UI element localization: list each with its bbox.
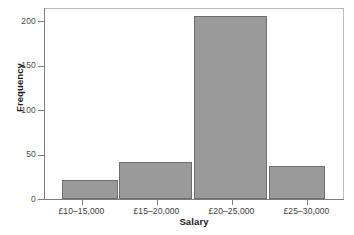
x-tick-mark (307, 200, 308, 205)
y-tick-mark (38, 66, 44, 67)
x-tick-mark (82, 200, 83, 205)
bar (269, 166, 325, 199)
bar (119, 162, 192, 199)
y-axis-line (44, 8, 45, 200)
y-tick-label: 200 (0, 16, 36, 26)
y-tick-label: 150 (0, 60, 36, 70)
y-axis-title: Frequency (14, 43, 25, 133)
y-tick-mark (38, 110, 44, 111)
y-tick-mark (38, 155, 44, 156)
x-tick-mark (232, 200, 233, 205)
bar (62, 180, 118, 199)
y-tick-mark (38, 199, 44, 200)
y-tick-label: 50 (0, 149, 36, 159)
x-axis-title: Salary (44, 216, 344, 227)
x-tick-label: £25–30,000 (262, 206, 352, 216)
y-tick-label: 0 (0, 194, 36, 204)
x-axis-line (44, 199, 344, 200)
histogram-figure: Frequency 050100150200 £10–15,000£15–20,… (0, 0, 354, 235)
x-tick-mark (157, 200, 158, 205)
y-tick-mark (38, 21, 44, 22)
y-tick-label: 100 (0, 105, 36, 115)
bar (194, 16, 267, 199)
